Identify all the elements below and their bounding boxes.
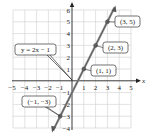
equation-callout: y = 2x − 1 [15, 44, 72, 80]
svg-text:(2, 3): (2, 3) [108, 44, 124, 52]
svg-text:4: 4 [67, 30, 71, 38]
svg-text:2: 2 [67, 54, 71, 62]
line-graph: x −5 −4 −3 −2 −1 1 2 3 4 5 6 5 4 3 2 1 −… [0, 0, 148, 134]
svg-text:4: 4 [117, 84, 121, 92]
svg-text:−4: −4 [21, 84, 29, 92]
x-tick-labels: −5 −4 −3 −2 −1 1 2 3 4 5 [8, 84, 133, 92]
svg-text:3: 3 [67, 42, 71, 50]
svg-text:−5: −5 [8, 84, 16, 92]
point-callout-2-3: (2, 3) [96, 42, 128, 53]
svg-text:5: 5 [129, 84, 133, 92]
svg-text:−3: −3 [33, 84, 41, 92]
equation-label: y = 2x − 1 [21, 46, 50, 54]
svg-text:(1, 1): (1, 1) [96, 67, 112, 75]
y-tick-labels: 6 5 4 3 2 1 −1 −2 −3 −4 [63, 7, 71, 133]
svg-text:(3, 5): (3, 5) [120, 18, 136, 26]
point-callout-1-1: (1, 1) [84, 65, 116, 76]
svg-text:6: 6 [67, 7, 71, 15]
svg-text:2: 2 [94, 84, 98, 92]
svg-text:−4: −4 [63, 125, 71, 133]
svg-text:1: 1 [67, 66, 71, 74]
y-axis-arrow-icon [70, 2, 74, 7]
svg-text:5: 5 [67, 18, 71, 26]
svg-text:(−1, −3): (−1, −3) [27, 98, 51, 106]
svg-text:1: 1 [82, 84, 86, 92]
x-axis-label: x [141, 77, 146, 85]
svg-text:−2: −2 [44, 84, 52, 92]
point-callout-neg1-neg3: (−1, −3) [22, 96, 60, 116]
svg-text:3: 3 [106, 84, 110, 92]
x-axis-arrow-icon [136, 79, 141, 83]
svg-text:−3: −3 [63, 113, 71, 121]
